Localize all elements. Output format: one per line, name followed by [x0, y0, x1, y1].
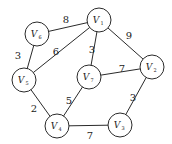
node-subscript: 2	[153, 67, 156, 73]
edge-weight-label: 7	[119, 63, 125, 74]
node-v6: V6	[25, 22, 49, 46]
node-v7: V7	[77, 65, 101, 89]
nodes-layer: V1V2V3V4V5V6V7	[12, 8, 164, 138]
node-subscript: 4	[58, 126, 61, 132]
edge-weight-label: 3	[130, 92, 136, 103]
edge-weight-label: 6	[53, 46, 59, 57]
edge-weight-label: 2	[31, 103, 37, 114]
edge-weight-label: 3	[15, 50, 21, 61]
node-subscript: 7	[90, 77, 93, 83]
edge-weight-label: 8	[63, 14, 69, 25]
node-v1: V1	[87, 8, 111, 32]
edge-weight-label: 9	[126, 30, 132, 41]
edge-weight-label: 7	[87, 130, 93, 141]
node-v2: V2	[140, 55, 164, 79]
node-subscript: 3	[121, 125, 124, 131]
node-v5: V5	[12, 68, 36, 92]
graph-diagram: 8363972537 V1V2V3V4V5V6V7	[0, 0, 172, 144]
node-v3: V3	[108, 113, 132, 137]
node-v4: V4	[45, 114, 69, 138]
edge-weight-label: 5	[66, 95, 72, 106]
node-subscript: 5	[25, 80, 28, 86]
node-subscript: 6	[38, 34, 41, 40]
edge-weight-label: 3	[89, 44, 95, 55]
node-subscript: 1	[100, 20, 103, 26]
